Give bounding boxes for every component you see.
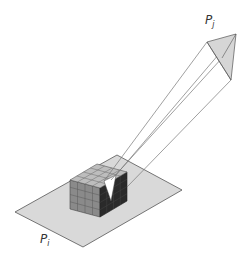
label-pi-sub: i [47,239,49,248]
form-factor-diagram [0,0,249,260]
label-pj-sub: j [212,20,214,29]
label-pj: Pj [205,14,214,29]
label-pi: Pi [40,233,49,248]
patch-pj [207,34,236,80]
